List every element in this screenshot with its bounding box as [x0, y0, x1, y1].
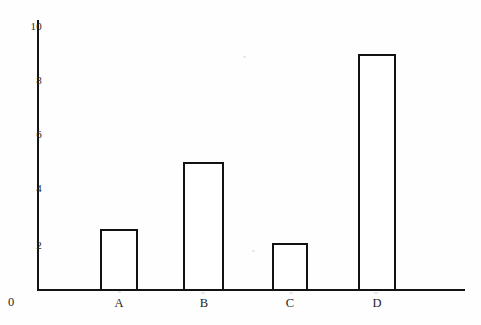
- scan-artifact: [289, 292, 293, 294]
- scan-artifact: [243, 56, 246, 58]
- y-tick-label-6: 6: [12, 129, 42, 140]
- x-tick-label-b: B: [184, 296, 224, 310]
- scan-artifact: [374, 292, 378, 294]
- bar-b: [183, 162, 224, 291]
- bar-c: [272, 243, 308, 291]
- bar-d: [358, 54, 396, 291]
- x-tick-label-a: A: [99, 296, 139, 310]
- y-tick-label-8: 8: [12, 75, 42, 86]
- bar-a: [100, 229, 138, 291]
- scan-artifact: [118, 291, 121, 293]
- origin-label: 0: [8, 295, 14, 309]
- bar-chart: 10 8 6 4 2 0 A B C D: [0, 0, 481, 325]
- y-tick-label-4: 4: [12, 183, 42, 194]
- scan-artifact: [252, 250, 255, 252]
- y-tick-label-2: 2: [12, 240, 42, 251]
- x-tick-label-d: D: [357, 296, 397, 310]
- y-tick-label-10: 10: [12, 21, 42, 32]
- scan-artifact: [201, 292, 205, 294]
- x-tick-label-c: C: [270, 296, 310, 310]
